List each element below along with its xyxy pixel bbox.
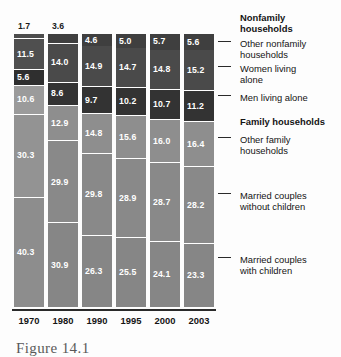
bar-1990[interactable]: 26.329.814.89.714.94.6 [82, 34, 112, 308]
segment-1980-other-family-households[interactable]: 12.9 [48, 106, 78, 141]
segment-value-label: 5.6 [184, 38, 199, 47]
x-axis-label-1990: 1990 [80, 313, 114, 329]
segment-1970-men-living-alone[interactable]: 5.6 [14, 70, 44, 85]
segment-2003-women-living-alone[interactable]: 15.2 [184, 50, 214, 92]
segment-value-label: 10.6 [14, 95, 34, 104]
segment-1980-women-living-alone[interactable]: 14.0 [48, 44, 78, 82]
segment-value-label: 29.9 [48, 178, 68, 187]
bar-1995[interactable]: 25.528.915.610.214.75.0 [116, 34, 146, 308]
segment-value-label: 5.7 [150, 37, 165, 46]
segment-1990-married-couples-with-children[interactable]: 26.3 [82, 236, 112, 308]
segment-1995-men-living-alone[interactable]: 10.2 [116, 88, 146, 116]
segment-value-label: 24.1 [150, 270, 170, 279]
bar-1980[interactable]: 30.929.912.98.614.03.63.6 [48, 34, 78, 308]
chart-plot-area: 40.330.310.65.611.51.71.730.929.912.98.6… [14, 34, 214, 308]
x-axis-line [12, 309, 216, 311]
segment-value-label: 10.7 [150, 100, 170, 109]
legend-item-other-nonfamily-households: Other nonfamilyhouseholds [240, 38, 339, 61]
segment-1995-married-couples-without-children[interactable]: 28.9 [116, 159, 146, 238]
segment-2003-men-living-alone[interactable]: 11.2 [184, 91, 214, 122]
x-axis-year-labels: 197019801990199520002003 [12, 313, 216, 329]
x-axis-label-1980: 1980 [46, 313, 80, 329]
segment-1980-men-living-alone[interactable]: 8.6 [48, 83, 78, 107]
segment-1970-other-nonfamily-households[interactable]: 1.7 [14, 34, 44, 39]
segment-value-label: 30.3 [14, 151, 34, 160]
segment-value-label: 28.2 [184, 201, 204, 210]
segment-value-label: 14.7 [116, 63, 136, 72]
segment-1995-other-family-households[interactable]: 15.6 [116, 116, 146, 159]
legend-header-nonfamily-households: Nonfamilyhouseholds [240, 12, 339, 35]
segment-1980-other-nonfamily-households[interactable]: 3.6 [48, 34, 78, 44]
x-axis-label-1995: 1995 [114, 313, 148, 329]
segment-value-label: 11.2 [184, 102, 204, 111]
legend-item-women-living-alone: Women livingalone [240, 63, 339, 86]
segment-value-label: 23.3 [184, 271, 204, 280]
legend-item-men-living-alone: Men living alone [240, 92, 339, 103]
segment-value-label: 4.6 [82, 36, 97, 45]
segment-value-label: 10.2 [116, 97, 136, 106]
segment-1995-other-nonfamily-households[interactable]: 5.0 [116, 34, 146, 48]
chart-legend: NonfamilyhouseholdsOther nonfamilyhouseh… [218, 6, 339, 306]
bar-2003[interactable]: 23.328.216.411.215.25.6 [184, 34, 214, 308]
x-axis-label-2000: 2000 [148, 313, 182, 329]
segment-value-label: 15.6 [116, 133, 136, 142]
segment-1995-women-living-alone[interactable]: 14.7 [116, 48, 146, 88]
legend-header-family-households: Family households [240, 116, 339, 127]
legend-leader-line [218, 95, 231, 96]
segment-value-label: 26.3 [82, 267, 102, 276]
segment-2003-married-couples-without-children[interactable]: 28.2 [184, 167, 214, 244]
segment-value-label: 28.9 [116, 194, 136, 203]
segment-value-label: 40.3 [14, 248, 34, 257]
segment-2003-other-family-households[interactable]: 16.4 [184, 122, 214, 167]
segment-value-label: 12.9 [48, 119, 68, 128]
legend-leader-line [218, 41, 231, 42]
legend-leader-line [218, 257, 231, 258]
segment-1970-married-couples-with-children[interactable]: 40.3 [14, 198, 44, 308]
legend-leader-line [218, 137, 231, 138]
segment-value-label: 14.8 [82, 129, 102, 138]
segment-value-label-outside: 1.7 [18, 22, 30, 31]
segment-value-label: 16.4 [184, 140, 204, 149]
segment-2003-other-nonfamily-households[interactable]: 5.6 [184, 34, 214, 49]
segment-1970-other-family-households[interactable]: 10.6 [14, 86, 44, 115]
segment-1995-married-couples-with-children[interactable]: 25.5 [116, 238, 146, 308]
segment-value-label: 11.5 [14, 50, 34, 59]
segment-1970-married-couples-without-children[interactable]: 30.3 [14, 115, 44, 198]
segment-value-label: 5.6 [14, 73, 29, 82]
segment-2000-married-couples-without-children[interactable]: 28.7 [150, 163, 180, 242]
segment-2003-married-couples-with-children[interactable]: 23.3 [184, 244, 214, 308]
segment-1980-married-couples-without-children[interactable]: 29.9 [48, 141, 78, 223]
figure-caption: Figure 14.1 [16, 340, 90, 357]
segment-2000-men-living-alone[interactable]: 10.7 [150, 90, 180, 119]
segment-1990-other-family-households[interactable]: 14.8 [82, 114, 112, 155]
legend-leader-line [218, 193, 231, 194]
segment-1980-married-couples-with-children[interactable]: 30.9 [48, 223, 78, 308]
segment-value-label: 28.7 [150, 198, 170, 207]
legend-leader-line [218, 66, 231, 67]
bar-1970[interactable]: 40.330.310.65.611.51.71.7 [14, 34, 44, 308]
x-axis-label-1970: 1970 [12, 313, 46, 329]
segment-value-label: 30.9 [48, 261, 68, 270]
segment-1990-women-living-alone[interactable]: 14.9 [82, 46, 112, 87]
segment-1970-women-living-alone[interactable]: 11.5 [14, 39, 44, 71]
segment-2000-married-couples-with-children[interactable]: 24.1 [150, 242, 180, 308]
bar-2000[interactable]: 24.128.716.010.714.85.7 [150, 34, 180, 308]
segment-value-label: 9.7 [82, 96, 97, 105]
segment-value-label: 14.0 [48, 58, 68, 67]
segment-1990-men-living-alone[interactable]: 9.7 [82, 87, 112, 114]
segment-value-label-outside: 3.6 [52, 22, 64, 31]
legend-item-other-family-households: Other familyhouseholds [240, 134, 339, 157]
legend-item-married-couples-without-children: Married coupleswithout children [240, 190, 339, 213]
x-axis-label-2003: 2003 [182, 313, 216, 329]
segment-2000-women-living-alone[interactable]: 14.8 [150, 50, 180, 91]
segment-value-label: 15.2 [184, 66, 204, 75]
segment-value-label: 14.9 [82, 62, 102, 71]
segment-value-label: 16.0 [150, 137, 170, 146]
segment-value-label: 14.8 [150, 65, 170, 74]
segment-2000-other-nonfamily-households[interactable]: 5.7 [150, 34, 180, 50]
segment-2000-other-family-households[interactable]: 16.0 [150, 120, 180, 164]
segment-1990-married-couples-without-children[interactable]: 29.8 [82, 154, 112, 236]
segment-1990-other-nonfamily-households[interactable]: 4.6 [82, 34, 112, 47]
segment-value-label: 8.6 [48, 89, 63, 98]
figure-stacked-bar-households: 40.330.310.65.611.51.71.730.929.912.98.6… [0, 0, 341, 357]
